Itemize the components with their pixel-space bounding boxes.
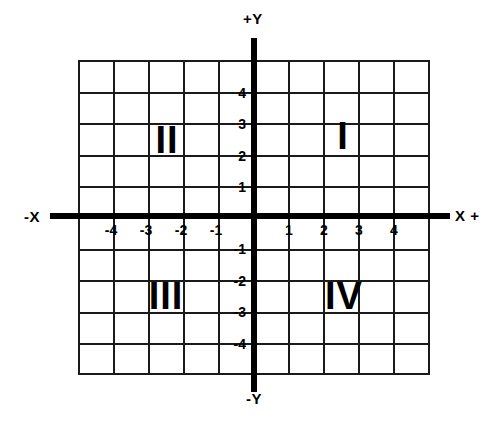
y-tick-label-neg-3: -3 <box>216 304 246 320</box>
x-tick-label-neg-1: -1 <box>203 222 229 238</box>
coordinate-plane-figure: -X X + +Y -Y 4 3 2 1 -1 -2 -3 -4 -4 -3 -… <box>0 0 501 424</box>
y-tick-label-4: 4 <box>216 85 246 101</box>
x-tick-label-neg-4: -4 <box>98 222 124 238</box>
x-tick-label-2: 2 <box>311 222 337 238</box>
axis-label-negative-y: -Y <box>246 390 262 407</box>
quadrant-label-3: III <box>149 275 184 318</box>
axis-label-positive-x: X + <box>455 207 479 224</box>
y-tick-label-neg-2: -2 <box>216 273 246 289</box>
axis-label-negative-x: -X <box>24 208 40 225</box>
y-tick-label-neg-4: -4 <box>216 336 246 352</box>
x-tick-label-1: 1 <box>276 222 302 238</box>
y-tick-label-3: 3 <box>216 116 246 132</box>
x-tick-label-neg-2: -2 <box>168 222 194 238</box>
x-tick-label-3: 3 <box>346 222 372 238</box>
y-axis-line <box>251 38 257 392</box>
x-tick-label-4: 4 <box>381 222 407 238</box>
quadrant-label-2: II <box>155 119 178 162</box>
y-tick-label-2: 2 <box>216 148 246 164</box>
axis-label-positive-y: +Y <box>243 10 263 27</box>
y-tick-label-1: 1 <box>216 179 246 195</box>
x-axis-line <box>50 213 450 219</box>
quadrant-label-4: IV <box>325 275 363 318</box>
y-tick-label-neg-1: -1 <box>216 241 246 257</box>
x-tick-label-neg-3: -3 <box>133 222 159 238</box>
quadrant-label-1: I <box>337 115 349 158</box>
